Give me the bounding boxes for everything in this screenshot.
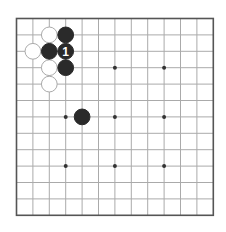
star-point [64, 115, 68, 119]
stone-circle [41, 76, 57, 92]
stone-circle [41, 43, 57, 59]
star-point [64, 164, 68, 168]
black-stone [58, 27, 74, 43]
white-stone [41, 76, 57, 92]
stone-circle [41, 27, 57, 43]
black-stone [58, 60, 74, 76]
white-stone [25, 43, 41, 59]
white-stone [41, 27, 57, 43]
star-point [113, 115, 117, 119]
star-point [162, 115, 166, 119]
stone-circle [58, 27, 74, 43]
star-point [162, 164, 166, 168]
go-board[interactable]: 1 [0, 0, 226, 232]
move-number-label: 1 [62, 45, 69, 59]
star-point [113, 164, 117, 168]
stone-circle [58, 60, 74, 76]
stones-layer: 1 [25, 27, 90, 125]
black-stone: 1 [58, 43, 74, 59]
stone-circle [25, 43, 41, 59]
black-stone [74, 109, 90, 125]
white-stone [41, 60, 57, 76]
star-point [113, 66, 117, 70]
black-stone [41, 43, 57, 59]
star-point [162, 66, 166, 70]
stone-circle [41, 60, 57, 76]
stone-circle [74, 109, 90, 125]
